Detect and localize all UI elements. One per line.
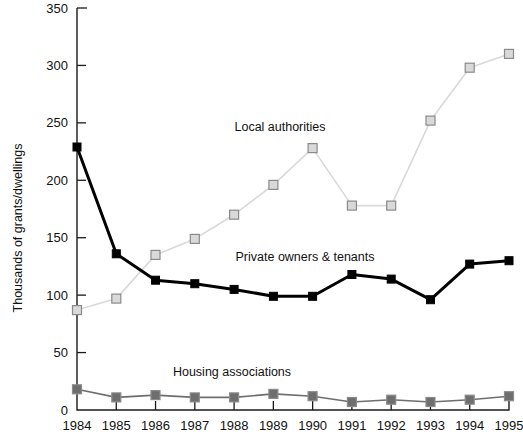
series-line [77,147,509,300]
chart-container: 050100150200250300350 198419851986198719… [0,0,523,439]
data-point-marker [387,275,395,283]
data-point-marker [387,201,396,210]
axis-frame [77,8,509,410]
data-point-marker [269,389,278,398]
x-tick-label: 1989 [259,418,288,433]
series-label-private-owners-tenants: Private owners & tenants [236,250,375,264]
y-tick-label: 250 [46,115,68,130]
x-tick-label: 1987 [180,418,209,433]
data-point-marker [308,144,317,153]
series-label-housing-associations: Housing associations [173,365,291,379]
y-tick-label: 200 [46,173,68,188]
data-point-marker [230,210,239,219]
data-point-marker [151,391,160,400]
data-point-marker [191,280,199,288]
data-point-marker [230,393,239,402]
series-annotations: Local authoritiesPrivate owners & tenant… [173,120,375,379]
series-housing-associations [73,385,514,407]
x-tick-label: 1988 [220,418,249,433]
y-tick-label: 150 [46,230,68,245]
x-tick-label: 1990 [298,418,327,433]
data-point-marker [230,285,238,293]
x-tick-label: 1995 [495,418,523,433]
data-point-marker [466,260,474,268]
series-layer [73,49,514,406]
data-point-marker [269,180,278,189]
data-point-marker [347,201,356,210]
y-tick-labels: 050100150200250300350 [46,1,68,418]
x-tick-label: 1991 [337,418,366,433]
data-point-marker [151,250,160,259]
x-tick-labels: 1984198519861987198819891990199119921993… [63,418,523,433]
y-axis-title: Thousands of grants/dwellings [11,144,25,313]
y-tick-label: 300 [46,58,68,73]
x-tick-label: 1984 [63,418,92,433]
data-point-marker [348,271,356,279]
series-line [77,389,509,402]
data-point-marker [427,296,435,304]
line-chart: 050100150200250300350 198419851986198719… [0,0,523,439]
data-point-marker [112,393,121,402]
series-local-authorities [73,49,514,314]
y-tick-label: 100 [46,288,68,303]
data-point-marker [465,395,474,404]
data-point-marker [152,276,160,284]
data-point-marker [505,257,513,265]
data-point-marker [309,292,317,300]
data-point-marker [426,398,435,407]
chart-axes [77,8,509,410]
data-point-marker [73,143,81,151]
data-point-marker [347,398,356,407]
data-point-marker [269,292,277,300]
data-point-marker [190,234,199,243]
data-point-marker [73,306,82,315]
x-tick-label: 1986 [141,418,170,433]
x-tick-label: 1992 [377,418,406,433]
data-point-marker [73,385,82,394]
y-tick-label: 50 [54,345,68,360]
data-point-marker [465,63,474,72]
y-tick-label: 350 [46,1,68,16]
series-label-local-authorities: Local authorities [234,120,325,134]
data-point-marker [112,250,120,258]
y-tick-label: 0 [61,403,68,418]
data-point-marker [505,392,514,401]
data-point-marker [505,49,514,58]
x-tick-label: 1994 [455,418,484,433]
x-tick-label: 1985 [102,418,131,433]
data-point-marker [387,395,396,404]
x-tick-label: 1993 [416,418,445,433]
data-point-marker [426,116,435,125]
data-point-marker [112,294,121,303]
data-point-marker [190,393,199,402]
data-point-marker [308,392,317,401]
